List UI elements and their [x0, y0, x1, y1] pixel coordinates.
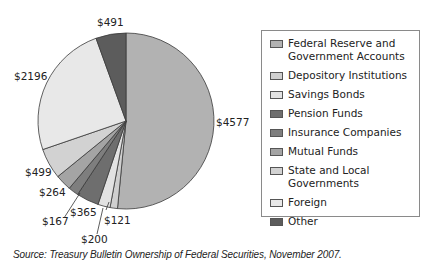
legend-item-other: Other [270, 215, 419, 228]
legend-item-depository: Depository Institutions [270, 69, 419, 82]
swatch-icon [270, 199, 283, 207]
legend: Federal Reserve and Government Accounts … [261, 30, 420, 217]
label-foreign: $2196 [14, 70, 48, 82]
leader-savings [97, 208, 103, 234]
legend-item-state-local: State and Local Governments [270, 164, 419, 190]
pie-slices [38, 33, 214, 209]
pie-slice-federal-reserve-and-government-accounts [117, 33, 213, 209]
legend-item-foreign: Foreign [270, 196, 419, 209]
legend-item-federal-reserve: Federal Reserve and Government Accounts [270, 37, 419, 63]
legend-list: Federal Reserve and Government Accounts … [262, 31, 419, 228]
swatch-icon [270, 167, 283, 175]
legend-item-insurance: Insurance Companies [270, 126, 419, 139]
label-mutual: $264 [39, 186, 66, 198]
swatch-icon [270, 91, 283, 99]
swatch-icon [270, 218, 283, 226]
swatch-icon [270, 129, 283, 137]
source-caption: Source: Treasury Bulletin Ownership of F… [13, 249, 342, 260]
legend-item-pension-funds: Pension Funds [270, 107, 419, 120]
swatch-icon [270, 72, 283, 80]
label-pension: $365 [70, 206, 97, 218]
legend-item-mutual-funds: Mutual Funds [270, 145, 419, 158]
swatch-icon [270, 40, 283, 48]
label-federal: $4577 [216, 116, 249, 128]
swatch-icon [270, 148, 283, 156]
legend-item-savings-bonds: Savings Bonds [270, 88, 419, 101]
swatch-icon [270, 110, 283, 118]
label-savings: $200 [81, 233, 108, 245]
label-state: $499 [25, 166, 52, 178]
label-depository: $121 [104, 214, 131, 226]
label-other: $491 [97, 16, 124, 28]
